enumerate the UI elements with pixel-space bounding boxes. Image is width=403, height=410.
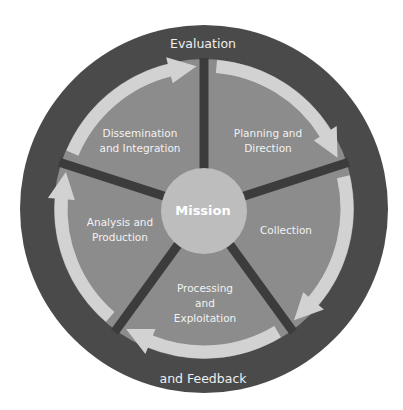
segment-dissemination-integration: Dissemination and Integration <box>100 126 181 156</box>
segment-label-line: Dissemination <box>100 126 181 141</box>
segment-label-line: and Integration <box>100 141 181 156</box>
segment-label-line: Production <box>87 230 153 245</box>
segment-label-line: Processing <box>174 281 236 296</box>
segment-label-line: Collection <box>260 223 312 238</box>
segment-collection: Collection <box>260 223 312 238</box>
segment-processing-exploitation: Processing and Exploitation <box>174 281 236 326</box>
segment-label-line: Planning and <box>234 126 302 141</box>
mission-label: Mission <box>175 203 231 218</box>
segment-analysis-production: Analysis and Production <box>87 215 153 245</box>
feedback-label: and Feedback <box>159 371 246 386</box>
segment-label-line: and <box>174 296 236 311</box>
segment-planning-direction: Planning and Direction <box>234 126 302 156</box>
segment-label-line: Direction <box>234 141 302 156</box>
evaluation-label: Evaluation <box>170 36 236 51</box>
segment-label-line: Exploitation <box>174 311 236 326</box>
segment-label-line: Analysis and <box>87 215 153 230</box>
